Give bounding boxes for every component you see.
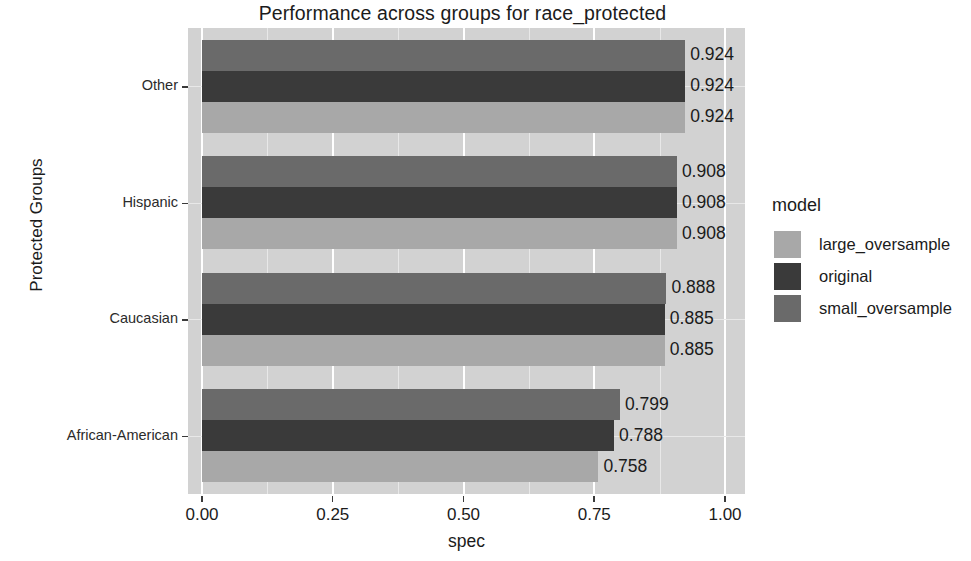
x-tick-label: 0.25	[303, 505, 363, 525]
bar-value-label: 0.924	[690, 75, 734, 96]
chart-title: Performance across groups for race_prote…	[175, 2, 750, 25]
bar-value-label: 0.758	[603, 456, 647, 477]
y-tick-label: Other	[142, 77, 178, 93]
y-tick-mark	[182, 203, 188, 205]
x-axis-title: spec	[188, 531, 745, 552]
bar	[202, 218, 677, 249]
bar	[202, 102, 685, 133]
y-axis-title: Protected Groups	[27, 105, 47, 345]
bar-value-label: 0.908	[682, 223, 726, 244]
legend-title: model	[772, 195, 821, 216]
bar	[202, 420, 614, 451]
bar-value-label: 0.888	[671, 277, 715, 298]
x-tick-label: 0.50	[434, 505, 494, 525]
legend-label: large_oversample	[819, 235, 950, 254]
bar	[202, 389, 620, 420]
y-tick-mark	[182, 319, 188, 321]
bar-value-label: 0.908	[682, 192, 726, 213]
bar-value-label: 0.885	[670, 308, 714, 329]
bar-value-label: 0.885	[670, 339, 714, 360]
bar	[202, 156, 677, 187]
legend-label: small_oversample	[819, 299, 952, 318]
legend-swatch-icon	[774, 231, 801, 258]
y-tick-mark	[182, 86, 188, 88]
bar	[202, 273, 666, 304]
legend-swatch-icon	[774, 263, 801, 290]
chart-figure: Performance across groups for race_prote…	[0, 0, 971, 561]
bar	[202, 304, 665, 335]
bar	[202, 335, 665, 366]
bar	[202, 187, 677, 218]
gridline-vertical-major	[724, 28, 726, 494]
bar-value-label: 0.908	[682, 161, 726, 182]
x-tick-label: 0.75	[564, 505, 624, 525]
y-tick-label: African-American	[67, 427, 178, 443]
x-tick-mark	[201, 496, 203, 502]
x-tick-label: 0.00	[172, 505, 232, 525]
legend-swatch-icon	[774, 295, 801, 322]
bar	[202, 71, 685, 102]
bar-value-label: 0.924	[690, 106, 734, 127]
legend-label: original	[819, 267, 872, 286]
x-tick-mark	[332, 496, 334, 502]
bar-value-label: 0.788	[619, 425, 663, 446]
bar	[202, 451, 598, 482]
bar	[202, 40, 685, 71]
bar-value-label: 0.924	[690, 44, 734, 65]
y-tick-mark	[182, 436, 188, 438]
x-tick-mark	[463, 496, 465, 502]
x-tick-mark	[724, 496, 726, 502]
y-tick-label: Hispanic	[122, 194, 178, 210]
x-tick-label: 1.00	[695, 505, 755, 525]
y-tick-label: Caucasian	[109, 310, 178, 326]
bar-value-label: 0.799	[625, 394, 669, 415]
x-tick-mark	[593, 496, 595, 502]
